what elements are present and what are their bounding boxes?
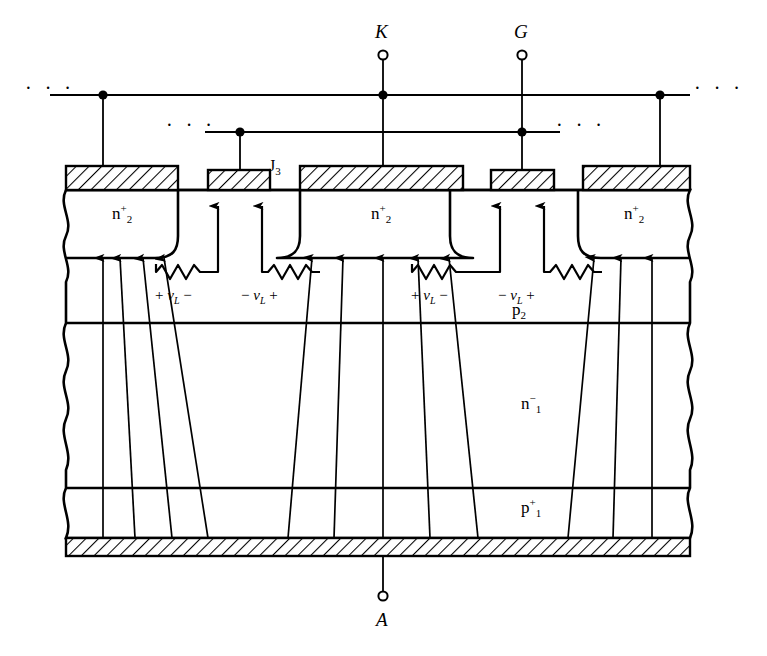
cathode-contact-left[interactable] <box>66 166 178 190</box>
rl1-pol-right: − <box>183 287 191 303</box>
rl1-symbol: v <box>167 287 174 303</box>
rl1-pol-left: + <box>155 287 163 303</box>
region-label-n1: n−1 <box>521 395 541 412</box>
gate-contact-right[interactable] <box>491 170 554 190</box>
cathode-terminal-node <box>378 50 387 59</box>
cathode-contact-mid[interactable] <box>300 166 463 190</box>
cathode-bus-wiring <box>50 50 690 166</box>
resistor-voltage-label-4: − vL + <box>498 288 535 303</box>
region-n2-left-sub: 2 <box>127 213 133 225</box>
region-n2-left-base: n <box>112 204 121 223</box>
rl2-sub: L <box>260 295 266 306</box>
anode-terminal-label: A <box>376 610 388 629</box>
gate-bus-left-ellipsis: · · · <box>166 115 216 135</box>
region-n1-sub: 1 <box>536 403 542 415</box>
gate-node-right <box>517 127 526 136</box>
figure-root: K G A · · · · · · · · · · · · J3 n+2 n+2… <box>0 0 767 656</box>
resistor-voltage-label-3: + vL − <box>411 288 448 303</box>
region-p1-base: p <box>521 498 530 517</box>
rl3-pol-right: − <box>439 287 447 303</box>
resistor-voltage-label-2: − vL + <box>241 288 278 303</box>
cathode-bus-right-ellipsis: · · · <box>694 78 744 98</box>
region-label-n2-right: n+2 <box>624 205 644 222</box>
rl4-pol-right: + <box>526 287 534 303</box>
region-n2-right-base: n <box>624 204 633 223</box>
rl3-sub: L <box>430 295 436 306</box>
device-cross-section-drawing <box>0 0 767 656</box>
region-n2-right-sub: 2 <box>639 213 645 225</box>
rl4-sub: L <box>517 295 523 306</box>
rl4-symbol: v <box>510 287 517 303</box>
region-p1-sub: 1 <box>536 507 542 519</box>
gate-terminal-node <box>517 50 526 59</box>
region-n2-mid-sub: 2 <box>386 213 392 225</box>
rl4-pol-left: − <box>498 287 506 303</box>
junction-j3-sub: 3 <box>275 165 281 177</box>
rl2-pol-right: + <box>269 287 277 303</box>
gate-node-left <box>235 127 244 136</box>
region-label-n2-left: n+2 <box>112 205 132 222</box>
junction-j3-label: J3 <box>269 158 281 174</box>
top-metal-contacts <box>66 166 690 190</box>
cathode-node-left <box>98 90 107 99</box>
rl3-symbol: v <box>423 287 430 303</box>
region-p2-sub: 2 <box>521 309 527 321</box>
rl2-symbol: v <box>253 287 260 303</box>
rl3-pol-left: + <box>411 287 419 303</box>
region-label-p1: p+1 <box>521 499 541 516</box>
cathode-contact-right[interactable] <box>583 166 690 190</box>
region-n1-base: n <box>521 394 530 413</box>
cathode-node-mid <box>378 90 387 99</box>
region-n2-mid-base: n <box>371 204 380 223</box>
silicon-body-outline <box>64 190 693 538</box>
gate-terminal-label: G <box>514 22 528 41</box>
rl2-pol-left: − <box>241 287 249 303</box>
rl1-sub: L <box>174 295 180 306</box>
device-body <box>64 190 693 538</box>
gate-bus-right-ellipsis: · · · <box>556 115 606 135</box>
cathode-terminal-label: K <box>375 22 388 41</box>
region-label-n2-mid: n+2 <box>371 205 391 222</box>
gate-contact-left[interactable] <box>208 170 270 190</box>
anode-metal-bar <box>66 538 690 556</box>
cathode-node-right <box>655 90 664 99</box>
anode-contact <box>66 538 690 601</box>
cathode-bus-left-ellipsis: · · · <box>25 78 75 98</box>
anode-terminal-node <box>378 591 387 600</box>
resistor-voltage-label-1: + vL − <box>155 288 192 303</box>
